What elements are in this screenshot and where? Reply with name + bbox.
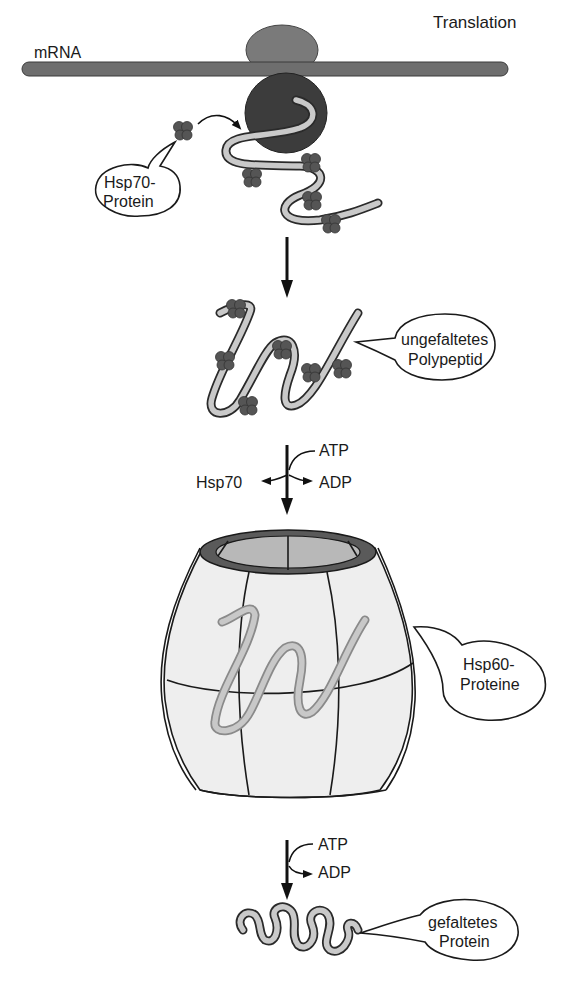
step1-adp-label: ADP xyxy=(319,474,352,491)
down-arrow-1 xyxy=(281,237,293,298)
hsp70-free-molecule xyxy=(174,122,193,141)
step1-hsp70-label: Hsp70 xyxy=(196,474,242,491)
step2-atp-label: ATP xyxy=(318,836,348,853)
hsp60-label-line1: Hsp60- xyxy=(463,656,515,673)
hsp70-protein-label-line1: Hsp70- xyxy=(104,174,156,191)
hsp60-chaperonin-barrel xyxy=(161,530,415,798)
atp-hydrolysis-step-2 xyxy=(281,840,313,900)
hsp70-binding-arrow xyxy=(198,115,238,126)
mrna-strand xyxy=(22,62,508,76)
unfolded-polypeptide-callout: ungefaltetes Polypeptid xyxy=(356,314,495,380)
folded-protein-callout: gefaltetes Protein xyxy=(360,900,518,961)
mrna-label: mRNA xyxy=(34,44,81,61)
atp-hydrolysis-step-1 xyxy=(266,445,315,515)
unfolded-label-line2: Polypeptid xyxy=(408,351,483,368)
hsp60-label-line2: Proteine xyxy=(460,676,520,693)
translation-label: Translation xyxy=(433,13,516,32)
folded-protein xyxy=(240,907,358,951)
hsp70-protein-label-line2: Protein xyxy=(103,193,154,210)
step2-adp-label: ADP xyxy=(318,864,351,881)
folded-label-line2: Protein xyxy=(439,933,490,950)
hsp70-protein-callout: Hsp70- Protein xyxy=(96,142,181,216)
folded-label-line1: gefaltetes xyxy=(428,914,497,931)
chaperone-folding-diagram: Translation mRNA Hsp70- Protein xyxy=(0,0,577,995)
unfolded-label-line1: ungefaltetes xyxy=(401,331,488,348)
step1-atp-label: ATP xyxy=(319,442,349,459)
hsp60-callout: Hsp60- Proteine xyxy=(414,627,545,720)
